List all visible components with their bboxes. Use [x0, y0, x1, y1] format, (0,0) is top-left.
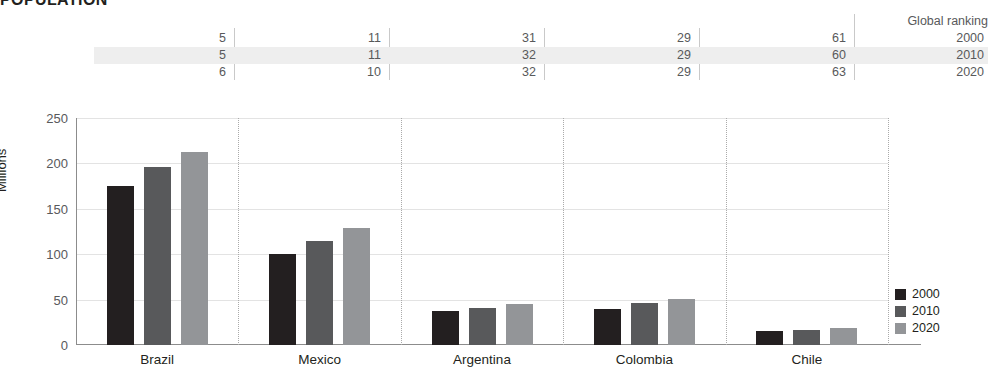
rank-cell-chile: 63	[699, 64, 854, 81]
page-title: POPULATION	[0, 0, 108, 9]
y-axis-tick-label: 250	[24, 111, 68, 126]
group-divider	[401, 118, 402, 345]
x-axis-label-brazil: Brazil	[76, 352, 238, 367]
bar-mexico-2000[interactable]	[269, 254, 296, 345]
rank-cell-colombia: 29	[544, 47, 699, 64]
y-axis-tick-label: 50	[24, 292, 68, 307]
x-axis-label-chile: Chile	[726, 352, 888, 367]
legend-swatch-icon	[895, 323, 906, 334]
bar-mexico-2010[interactable]	[306, 241, 333, 345]
bar-brazil-2000[interactable]	[107, 186, 134, 345]
legend-label: 2020	[912, 321, 940, 335]
legend-item-2020[interactable]: 2020	[895, 320, 940, 336]
global-ranking-header: Global ranking	[870, 14, 988, 28]
rank-cell-brazil: 5	[94, 30, 234, 47]
group-divider	[563, 118, 564, 345]
y-axis-tick-label: 0	[24, 338, 68, 353]
rank-row-year: 2020	[854, 64, 988, 81]
bar-colombia-2010[interactable]	[631, 303, 658, 345]
chart-plot-area	[76, 118, 888, 345]
table-row: 5 11 31 29 61 2000	[94, 30, 988, 47]
rank-cell-mexico: 11	[234, 30, 389, 47]
y-axis-tick-label: 100	[24, 247, 68, 262]
bar-colombia-2000[interactable]	[594, 309, 621, 345]
legend-label: 2000	[912, 287, 940, 301]
rank-cell-colombia: 29	[544, 30, 699, 47]
bar-argentina-2020[interactable]	[506, 304, 533, 345]
group-divider	[726, 118, 727, 345]
bar-mexico-2020[interactable]	[343, 228, 370, 345]
table-row: 5 11 32 29 60 2010	[94, 47, 988, 64]
rank-cell-argentina: 31	[389, 30, 544, 47]
x-axis-label-mexico: Mexico	[238, 352, 400, 367]
bar-argentina-2010[interactable]	[469, 308, 496, 345]
legend-item-2010[interactable]: 2010	[895, 303, 940, 319]
y-axis-tick-label: 200	[24, 156, 68, 171]
legend-swatch-icon	[895, 289, 906, 300]
rank-cell-colombia: 29	[544, 64, 699, 81]
x-axis-label-colombia: Colombia	[563, 352, 725, 367]
bar-argentina-2000[interactable]	[432, 311, 459, 345]
legend-item-2000[interactable]: 2000	[895, 286, 940, 302]
y-axis-ticks: 050100150200250	[0, 118, 76, 345]
global-ranking-table: Global ranking 5 11 31 29 61 2000 5 11 3…	[94, 14, 988, 80]
bar-colombia-2020[interactable]	[668, 299, 695, 345]
rank-cell-brazil: 5	[94, 47, 234, 64]
bar-brazil-2020[interactable]	[181, 152, 208, 345]
x-axis-label-argentina: Argentina	[401, 352, 563, 367]
group-divider	[238, 118, 239, 345]
rank-cell-mexico: 10	[234, 64, 389, 81]
legend-label: 2010	[912, 304, 940, 318]
bar-chile-2010[interactable]	[793, 330, 820, 345]
bar-chile-2020[interactable]	[830, 328, 857, 345]
rank-cell-brazil: 6	[94, 64, 234, 81]
table-row: 6 10 32 29 63 2020	[94, 64, 988, 81]
rank-cell-mexico: 11	[234, 47, 389, 64]
bar-brazil-2010[interactable]	[144, 167, 171, 345]
chart-legend: 2000 2010 2020	[895, 286, 940, 337]
rank-row-year: 2000	[854, 30, 988, 47]
rank-cell-chile: 60	[699, 47, 854, 64]
rank-cell-argentina: 32	[389, 64, 544, 81]
grid-line	[77, 118, 888, 119]
rank-cell-argentina: 32	[389, 47, 544, 64]
bar-chile-2000[interactable]	[756, 331, 783, 345]
y-axis-tick-label: 150	[24, 201, 68, 216]
rank-row-year: 2010	[854, 47, 988, 64]
group-divider	[888, 118, 889, 345]
legend-swatch-icon	[895, 306, 906, 317]
rank-cell-chile: 61	[699, 30, 854, 47]
